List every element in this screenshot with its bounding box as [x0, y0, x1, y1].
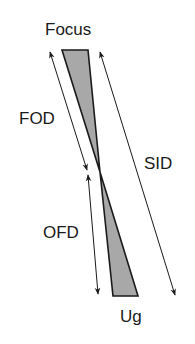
fod-label: FOD	[19, 110, 55, 127]
unsharpness-diagram: Focus FOD SID OFD Ug	[0, 0, 195, 344]
focus-beam-triangle	[62, 50, 100, 172]
ofd-label: OFD	[43, 224, 79, 241]
sid-label: SID	[144, 155, 172, 172]
penumbra-triangle	[100, 172, 138, 296]
ofd-arrow	[88, 175, 98, 294]
focus-label: Focus	[45, 21, 91, 38]
ug-label: Ug	[120, 308, 142, 325]
